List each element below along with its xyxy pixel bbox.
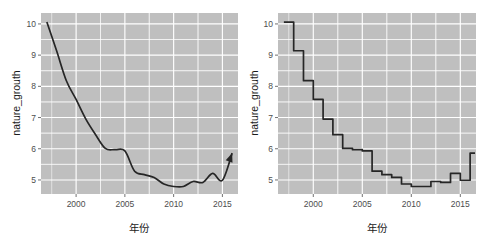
y-tick-label: 10 [27,19,37,29]
y-tick-label: 5 [31,175,36,185]
x-tick-label: 2000 [304,199,323,209]
y-tick-label: 6 [31,144,36,154]
x-axis-title-right: 年份 [367,222,388,234]
x-tick-label: 2005 [115,199,134,209]
chart-panel-left: 56789102000200520102015 nature_grouth 年份 [0,0,247,250]
y-tick-label: 7 [268,113,273,123]
chart-svg-left: 56789102000200520102015 nature_grouth 年份 [0,0,247,250]
y-tick-label: 8 [31,81,36,91]
figure-root: 56789102000200520102015 nature_grouth 年份… [0,0,494,250]
y-tick-label: 8 [268,81,273,91]
y-tick-label: 7 [31,113,36,123]
panel-background-left [41,13,238,194]
panel-background-right [278,13,476,194]
y-axis-title-right: nature_grouth [248,70,260,136]
x-tick-label: 2000 [67,199,86,209]
y-tick-label: 6 [268,144,273,154]
y-tick-label: 9 [31,50,36,60]
chart-svg-right: 56789102000200520102015 nature_grouth 年份 [247,0,494,250]
x-tick-label: 2010 [164,199,183,209]
y-tick-label: 5 [268,175,273,185]
x-axis-title-left: 年份 [129,222,150,234]
x-tick-label: 2010 [402,199,421,209]
y-tick-label: 9 [268,50,273,60]
x-tick-label: 2005 [353,199,372,209]
y-tick-label: 10 [264,19,274,29]
x-tick-label: 2015 [213,199,232,209]
x-tick-label: 2015 [451,199,470,209]
chart-panel-right: 56789102000200520102015 nature_grouth 年份 [247,0,494,250]
y-axis-title-left: nature_grouth [10,70,22,136]
